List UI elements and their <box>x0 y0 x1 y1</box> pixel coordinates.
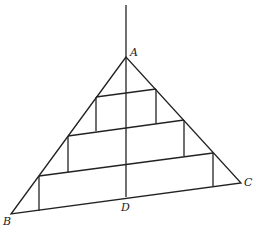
figure-caption <box>95 226 165 229</box>
diagram-figure: A B C D <box>0 0 256 233</box>
label-c: C <box>244 176 252 189</box>
label-b: B <box>3 215 11 228</box>
label-d: D <box>121 201 130 214</box>
triangle-diagram <box>0 0 256 233</box>
label-a: A <box>130 46 138 59</box>
